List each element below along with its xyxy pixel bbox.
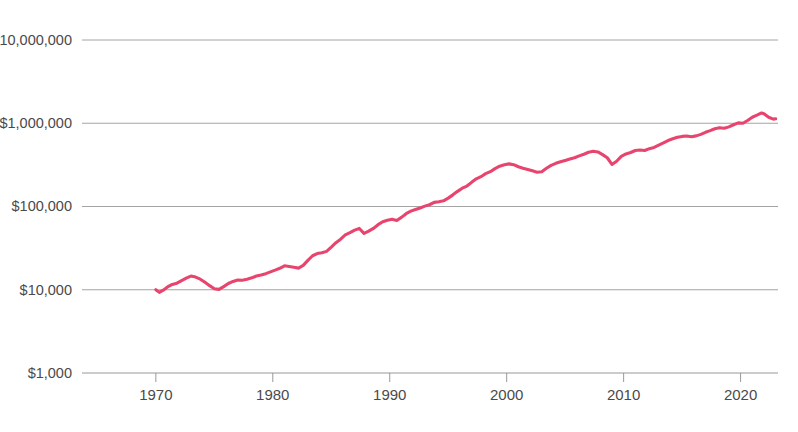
y-tick-label: $1,000 bbox=[28, 365, 72, 381]
x-tick-label: 2000 bbox=[490, 386, 523, 403]
chart-canvas: $10,000,000$1,000,000$100,000$10,000$1,0… bbox=[0, 0, 798, 432]
y-tick-label: $10,000 bbox=[20, 282, 72, 298]
x-tick-label: 1990 bbox=[373, 386, 406, 403]
stock-growth-line-chart: $10,000,000$1,000,000$100,000$10,000$1,0… bbox=[0, 0, 798, 432]
x-axis bbox=[82, 373, 778, 382]
x-tick-label: 2020 bbox=[724, 386, 757, 403]
data-series bbox=[156, 113, 776, 292]
series-line bbox=[156, 113, 776, 292]
y-tick-label: $10,000,000 bbox=[0, 32, 72, 48]
x-tick-label: 2010 bbox=[607, 386, 640, 403]
x-axis-tick-labels: 197019801990200020102020 bbox=[139, 386, 757, 403]
y-tick-label: $1,000,000 bbox=[0, 115, 72, 131]
x-tick-label: 1980 bbox=[256, 386, 289, 403]
y-axis-tick-labels: $10,000,000$1,000,000$100,000$10,000$1,0… bbox=[0, 32, 72, 381]
y-tick-label: $100,000 bbox=[12, 198, 72, 214]
gridlines bbox=[82, 40, 778, 290]
x-tick-label: 1970 bbox=[139, 386, 172, 403]
